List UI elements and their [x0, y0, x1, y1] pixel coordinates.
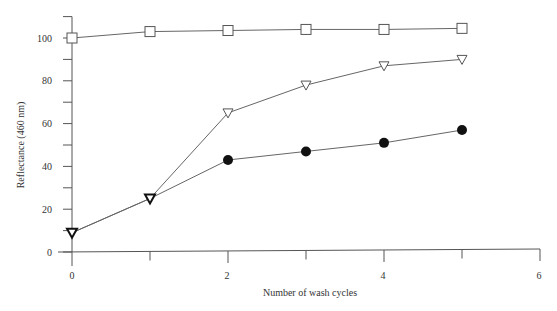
triangle-marker: [67, 229, 77, 238]
x-axis-line: [58, 249, 540, 252]
square-marker: [67, 33, 77, 43]
filled-circle-markers: [223, 125, 467, 165]
triangle-marker: [301, 81, 311, 90]
triangle-marker: [145, 195, 155, 204]
y-tick-label: 0: [47, 247, 52, 258]
square-marker: [457, 23, 467, 33]
open-triangle-markers: [67, 55, 467, 237]
circle-marker: [223, 155, 233, 165]
y-tick-label: 80: [42, 75, 52, 86]
circle-marker: [379, 138, 389, 148]
y-axis-title: Reflectance (460 nm): [15, 102, 27, 189]
square-marker: [145, 27, 155, 37]
x-tick-label: 6: [537, 270, 542, 281]
square-marker: [223, 26, 233, 36]
square-marker: [301, 24, 311, 34]
y-tick-label: 60: [42, 118, 52, 129]
filled-circle-series: [72, 130, 462, 233]
series-line: [72, 28, 462, 38]
y-tick-label: 40: [42, 161, 52, 172]
x-tick-label: 2: [225, 270, 230, 281]
circle-marker: [457, 125, 467, 135]
y-tick-label: 100: [37, 33, 52, 44]
y-tick-label: 20: [42, 204, 52, 215]
x-axis-title: Number of wash cycles: [263, 287, 357, 298]
x-tick-label: 4: [381, 270, 386, 281]
square-marker: [379, 24, 389, 34]
series-line: [72, 130, 462, 233]
circle-marker: [301, 146, 311, 156]
open-square-series: [72, 28, 462, 38]
x-tick-label: 0: [70, 270, 75, 281]
data-series: [67, 23, 467, 237]
line-chart: 0204060801000246 Number of wash cycles R…: [0, 0, 557, 311]
